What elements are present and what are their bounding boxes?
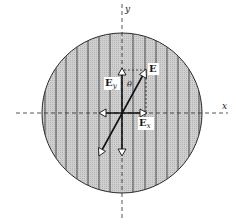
theta-label: θ [127, 80, 132, 89]
y-axis-label: y [124, 4, 131, 14]
polarizer-diagram: x y E Ey θ Ex [0, 0, 236, 224]
e-label: E [149, 63, 157, 74]
x-axis-label: x [222, 101, 227, 111]
